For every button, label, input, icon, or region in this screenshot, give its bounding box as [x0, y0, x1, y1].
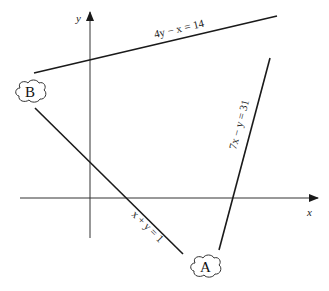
coordinate-diagram: x y 4y − x = 14 x + y = 1 7x − y = 31 B …: [0, 0, 329, 291]
line-4y-minus-x-eq-14: [34, 16, 277, 73]
point-a: A: [191, 255, 221, 277]
y-axis-label: y: [75, 12, 81, 24]
point-a-label: A: [200, 259, 211, 275]
point-b-label: B: [25, 84, 35, 100]
point-b: B: [16, 80, 46, 102]
line-7x-minus-y-eq-31: [219, 58, 270, 250]
x-axis-label: x: [306, 206, 312, 218]
line-2-label: x + y = 1: [130, 208, 167, 245]
line-1-label: 4y − x = 14: [153, 17, 206, 40]
